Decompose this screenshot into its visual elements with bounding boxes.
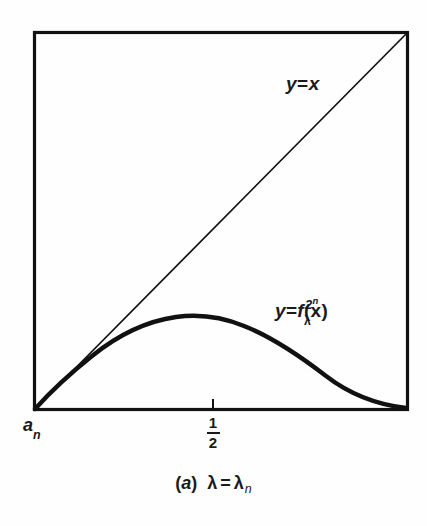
- identity-x: x: [309, 73, 320, 94]
- caption-lambda: λ: [206, 473, 218, 493]
- a-n-subscript: n: [33, 428, 41, 442]
- function-f: f: [297, 300, 304, 321]
- identity-equals: =: [297, 73, 309, 94]
- axis-label-one-half: 1 2: [199, 415, 227, 451]
- function-superscript-exponent: n: [312, 295, 318, 306]
- function-curve-label: y=f2nλ(x): [275, 301, 328, 320]
- caption-close-paren: ): [191, 473, 197, 493]
- a-n-symbol: a: [23, 415, 33, 435]
- caption-index: a: [181, 473, 191, 493]
- caption-subscript: n: [245, 482, 252, 496]
- identity-line: [35, 33, 408, 410]
- function-superscript: 2n: [305, 298, 319, 311]
- one-half-numerator: 1: [199, 415, 227, 431]
- caption-lambda-sub: λ: [233, 473, 245, 493]
- figure-caption: (a)λ=λn: [0, 473, 427, 494]
- one-half-denominator: 2: [199, 435, 227, 451]
- caption-equals: =: [218, 473, 233, 493]
- axis-label-a-n: an: [23, 416, 41, 438]
- function-curve: [35, 316, 406, 409]
- identity-line-label: y=x: [286, 74, 320, 93]
- identity-y: y: [286, 73, 297, 94]
- function-y: y: [275, 300, 286, 321]
- function-equals: =: [286, 300, 297, 321]
- function-subscript: λ: [304, 315, 311, 327]
- figure-container: y=x y=f2nλ(x) an 1 2 (a)λ=λn: [0, 0, 427, 526]
